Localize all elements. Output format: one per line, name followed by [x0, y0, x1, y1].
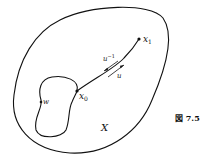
figure-caption: 図 7.5 — [175, 113, 200, 123]
path-u — [77, 39, 139, 91]
label-space-x: X — [100, 122, 109, 133]
label-x1: x1 — [143, 34, 152, 45]
point-x1 — [137, 37, 140, 40]
label-u-inverse: u−1 — [103, 53, 115, 63]
loop-w — [35, 77, 77, 137]
label-w: w — [43, 98, 49, 106]
label-u: u — [117, 72, 122, 80]
point-w — [40, 101, 43, 104]
diagram: x1 x0 w u−1 u X 図 7.5 — [0, 0, 215, 159]
label-x0: x0 — [79, 91, 88, 102]
